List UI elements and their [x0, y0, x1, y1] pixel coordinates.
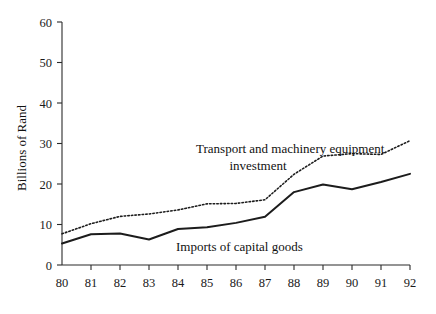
y-tick-label: 40 [40, 97, 53, 111]
y-tick-label: 60 [40, 16, 53, 30]
series-imports-capital-goods [62, 174, 410, 244]
x-tick-label: 84 [172, 276, 185, 290]
y-tick-label: 20 [40, 178, 53, 192]
x-tick-label: 85 [201, 276, 214, 290]
line-chart: 0102030405060 80818283848586878889909192… [0, 0, 436, 314]
x-tick-label: 86 [230, 276, 243, 290]
x-axis-ticks [91, 265, 410, 270]
annotation-transport-line1: Transport and machinery equipment [196, 141, 385, 156]
x-tick-label: 82 [114, 276, 127, 290]
y-tick-label: 50 [40, 56, 53, 70]
x-tick-label: 80 [56, 276, 69, 290]
x-tick-label: 88 [288, 276, 301, 290]
annotation-transport-line2: investment [229, 158, 286, 173]
chart-canvas: 0102030405060 80818283848586878889909192… [0, 0, 436, 314]
y-axis-tick-labels: 0102030405060 [40, 16, 53, 273]
x-tick-label: 90 [346, 276, 359, 290]
y-tick-label: 30 [40, 137, 53, 151]
x-axis-tick-labels: 80818283848586878889909192 [56, 276, 417, 290]
x-tick-label: 89 [317, 276, 330, 290]
y-axis-ticks [57, 22, 62, 265]
x-tick-label: 91 [375, 276, 388, 290]
x-tick-label: 83 [143, 276, 156, 290]
y-axis-title: Billions of Rand [14, 105, 29, 191]
y-tick-label: 0 [46, 259, 52, 273]
x-tick-label: 87 [259, 276, 272, 290]
x-tick-label: 92 [404, 276, 417, 290]
annotation-imports: Imports of capital goods [176, 239, 303, 254]
y-tick-label: 10 [40, 218, 53, 232]
x-tick-label: 81 [85, 276, 98, 290]
